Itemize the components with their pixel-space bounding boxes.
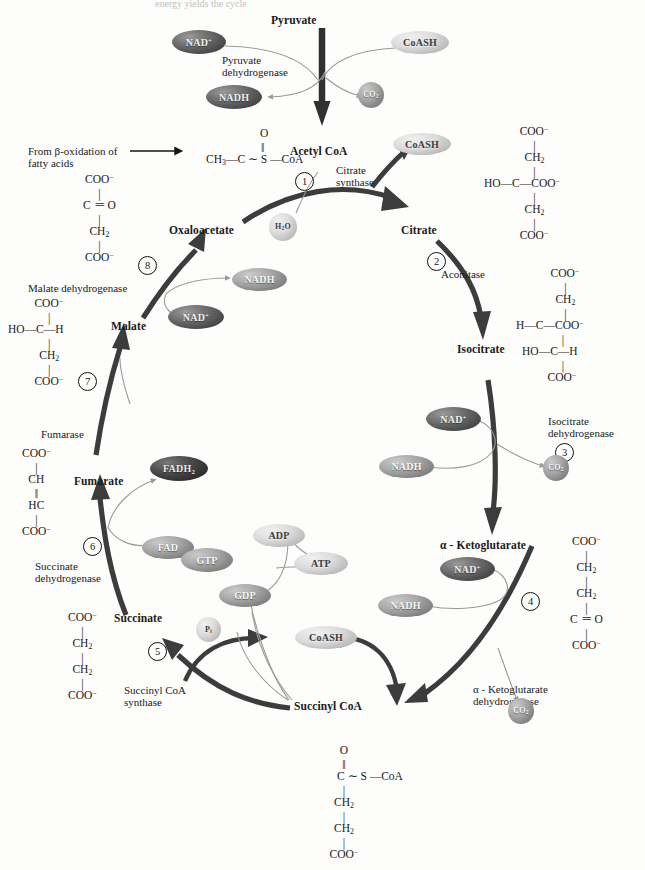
pill-label: NADH — [391, 461, 421, 472]
pill-nad-plus-step4: NAD+ — [440, 557, 495, 581]
struct-line: | — [484, 193, 560, 204]
enz-line-1: α - Ketoglutarate — [473, 683, 548, 695]
note-line-2: fatty acids — [28, 157, 74, 169]
arc-coash-from-right — [340, 637, 406, 706]
struct-line: COO− — [484, 230, 560, 245]
struct-line: CH2 — [484, 204, 560, 219]
pill-label: NAD+ — [440, 414, 466, 425]
pill-label: H2O — [275, 222, 291, 231]
label-isocitrate-dehydrogenase: Isocitrate dehydrogenase — [548, 415, 614, 440]
struct-line: HO—C—H — [8, 324, 64, 339]
pill-label: CoASH — [309, 632, 343, 643]
step-number-8: 8 — [138, 256, 157, 275]
pill-co2-step3: CO2 — [543, 455, 569, 481]
struct-line: | — [8, 339, 64, 350]
pill-nad-plus-step3: NAD+ — [426, 407, 481, 431]
enz-line-1: Citrate — [336, 164, 366, 176]
label-oxaloacetate: Oxaloacetate — [169, 224, 234, 237]
struct-line: HO—C—COO− — [484, 178, 560, 193]
step-number-2: 2 — [427, 252, 446, 271]
label-citrate: Citrate — [401, 224, 437, 237]
label-succinyl-coa: Succinyl CoA — [294, 700, 362, 713]
curve-gdp-to-step5 — [252, 612, 292, 700]
label-citrate-synthase: Citrate synthase — [336, 164, 374, 189]
enz-line-1: Isocitrate — [548, 415, 589, 427]
label-succinate: Succinate — [114, 612, 162, 625]
label-malate: Malate — [111, 320, 146, 333]
pill-fadh2: FADH2 — [150, 456, 208, 481]
pill-coash-pdh: CoASH — [391, 31, 449, 54]
enz-line-2: dehydrogenase — [35, 572, 101, 584]
pill-co2-pdh: CO2 — [358, 82, 384, 108]
pill-label: FAD — [158, 542, 178, 553]
struct-line: COO− — [516, 372, 584, 387]
curve-adp-to-gdp — [262, 540, 288, 594]
label-pyruvate-dehydrogenase: Pyruvate dehydrogenase — [222, 54, 288, 79]
struct-line: COO− — [68, 690, 97, 705]
pill-label: ATP — [311, 558, 331, 569]
struct-line: CH2 — [484, 152, 560, 167]
pill-nadh-step4: NADH — [378, 594, 433, 617]
pill-label: Pi — [205, 625, 212, 634]
curve-pi-to-step5 — [237, 632, 288, 700]
step-number-1: 1 — [295, 172, 314, 191]
curve-step8-to-nadh — [166, 278, 228, 294]
pill-gdp: GDP — [219, 584, 271, 607]
label-pyruvate: Pyruvate — [271, 14, 317, 27]
enz-line-1: Succinate — [35, 560, 78, 572]
pill-label: NADH — [244, 274, 274, 285]
step-number-7: 7 — [78, 372, 97, 391]
struct-line: O — [206, 128, 303, 143]
label-fumarase: Fumarase — [41, 428, 84, 440]
arc-oxaloacetate-to-citrate — [243, 186, 409, 222]
curve-h2o-to-step7 — [120, 358, 130, 404]
pill-label: CO2 — [363, 90, 378, 99]
label-succinate-dehydrogenase: Succinate dehydrogenase — [35, 560, 101, 585]
pill-label: NAD+ — [186, 37, 212, 48]
label-alpha-ketoglutarate: α - Ketoglutarate — [440, 539, 526, 552]
structure-isocitrate: COO− | CH2 | H—C—COO− | HO—C—H | COO− — [516, 268, 584, 387]
pill-label: CoASH — [405, 139, 439, 150]
pill-label: CO2 — [548, 463, 563, 472]
note-line-1: From β-oxidation of — [28, 145, 117, 157]
struct-line: CH2 — [8, 350, 64, 365]
pill-atp: ATP — [294, 552, 348, 575]
label-isocitrate: Isocitrate — [457, 343, 505, 356]
pill-nadh-step3: NADH — [379, 455, 434, 478]
label-succinyl-coa-synthase: Succinyl CoA synthase — [124, 684, 186, 709]
pill-nad-plus-pdh: NAD+ — [172, 30, 226, 54]
structure-alpha-ketoglutarate: COO− | CH2 | CH2 | C ＝ O | COO− — [570, 536, 603, 655]
struct-line: | — [484, 141, 560, 152]
structure-succinyl-coa: O ‖ C ∼ S —CoA | CH2 | CH2 | COO− — [285, 745, 403, 864]
label-fumarate: Fumarate — [74, 475, 123, 488]
structure-malate: COO− | HO—C—H | CH2 | COO− — [8, 298, 64, 391]
pill-nadh-step8: NADH — [232, 268, 287, 291]
step-number-6: 6 — [83, 537, 102, 556]
curve-pdh-to-co2 — [326, 78, 360, 96]
pill-nadh-pdh: NADH — [206, 85, 262, 109]
arc-citrate-to-isocitrate — [437, 241, 491, 340]
struct-line: H—C—COO− — [516, 320, 584, 335]
pill-h2o-step1: H2O — [269, 213, 297, 241]
pill-label: CoASH — [403, 37, 437, 48]
pill-label: NADH — [390, 600, 420, 611]
step-number-5: 5 — [148, 642, 167, 661]
struct-line: COO− — [22, 526, 51, 541]
enz-line-2: dehydrogenase — [548, 427, 614, 439]
pill-label: NAD+ — [183, 312, 209, 323]
struct-line: CH3—C ∼ S —CoA — [206, 154, 303, 169]
structure-succinate: COO− | CH2 | CH2 | COO− — [68, 612, 97, 705]
pill-label: FADH2 — [163, 463, 195, 475]
structure-fumarate: COO− | CH ‖ HC | COO− — [22, 448, 51, 541]
struct-line: COO− — [8, 298, 64, 313]
pill-label: ADP — [268, 530, 289, 541]
struct-line: COO− — [516, 268, 584, 283]
struct-line: COO− — [83, 252, 116, 267]
curve-coash-to-pdh — [322, 48, 395, 80]
note-beta-oxidation: From β-oxidation of fatty acids — [28, 145, 117, 170]
pill-co2-step4: CO2 — [508, 698, 534, 724]
enz-line-1: Pyruvate — [222, 54, 261, 66]
label-aconitase: Aconitase — [441, 268, 485, 280]
label-malate-dehydrogenase: Malate dehydrogenase — [28, 282, 127, 294]
struct-line: COO− — [285, 849, 403, 864]
